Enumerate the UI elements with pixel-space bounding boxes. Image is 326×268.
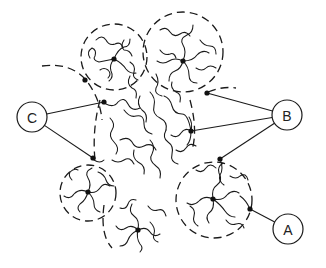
leader-line-b	[207, 93, 273, 111]
bottom-middle-arc	[103, 205, 112, 248]
top-right-domain	[143, 12, 223, 92]
crosslink-node	[188, 128, 193, 133]
central-right-arc	[190, 100, 195, 150]
label-b: B	[272, 100, 302, 130]
crosslink-node	[247, 206, 252, 211]
label-a: A	[273, 214, 303, 244]
leader-line-b	[191, 117, 272, 131]
crosslink-node	[101, 99, 106, 104]
crosslink-node	[217, 156, 222, 161]
crosslink-node	[85, 189, 90, 194]
crosslink-nodes	[82, 56, 252, 232]
crosslink-node	[135, 227, 140, 232]
central-left-arc	[94, 100, 100, 160]
label-text: A	[283, 222, 293, 238]
callout-leader-lines	[44, 93, 274, 222]
crosslink-node	[204, 90, 209, 95]
label-c: C	[17, 102, 47, 132]
leader-line-a	[250, 209, 275, 222]
leader-line-c	[47, 102, 104, 114]
right-domain-arc	[208, 88, 236, 93]
label-text: B	[282, 108, 291, 124]
crosslink-node	[210, 196, 215, 201]
crosslink-node	[82, 77, 87, 82]
leader-line-c	[44, 125, 93, 158]
outer-domain-arc	[42, 65, 102, 120]
leader-line-b	[220, 123, 274, 159]
crosslink-node	[90, 155, 95, 160]
polymer-network-diagram: ABC	[0, 0, 326, 268]
crosslink-node	[111, 56, 116, 61]
crosslink-node	[180, 58, 185, 63]
label-text: C	[27, 110, 37, 126]
